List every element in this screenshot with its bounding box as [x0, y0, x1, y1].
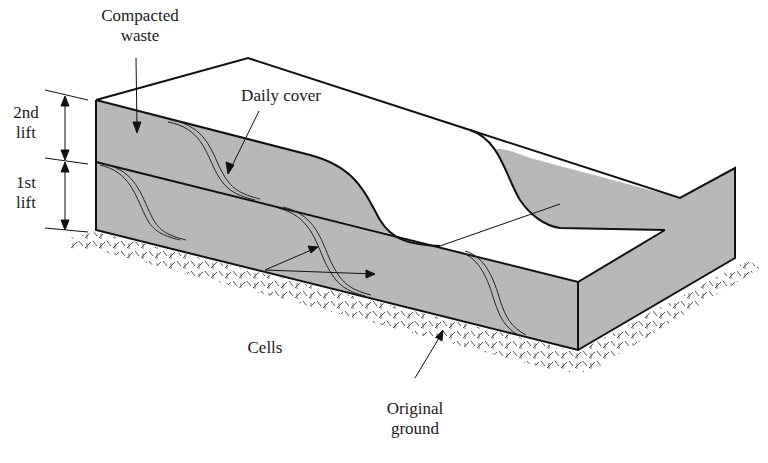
lift-dimension-markers: [45, 90, 88, 232]
landfill-block-drawing: [0, 0, 768, 463]
cells-label: Cells: [225, 338, 305, 358]
landfill-diagram: Compacted waste Daily cover 2nd lift 1st…: [0, 0, 768, 463]
compacted-waste-label-line1: Compacted: [80, 6, 200, 26]
first-lift-label-line2: lift: [6, 193, 46, 213]
original-ground-label-line1: Original: [365, 399, 465, 419]
second-lift-label: 2nd lift: [6, 103, 46, 143]
second-lift-label-line1: 2nd: [6, 103, 46, 123]
original-ground-label-line2: ground: [365, 419, 465, 439]
compacted-waste-label: Compacted waste: [80, 6, 200, 46]
second-lift-label-line2: lift: [6, 123, 46, 143]
first-lift-label: 1st lift: [6, 173, 46, 213]
original-ground-label: Original ground: [365, 399, 465, 439]
first-lift-label-line1: 1st: [6, 173, 46, 193]
compacted-waste-label-line2: waste: [80, 26, 200, 46]
daily-cover-label: Daily cover: [226, 86, 336, 106]
